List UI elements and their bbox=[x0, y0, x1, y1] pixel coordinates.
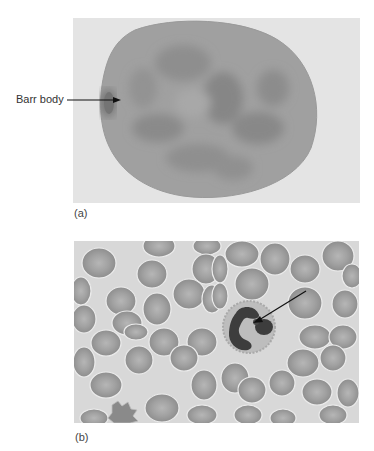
micrograph-panel-a bbox=[73, 18, 360, 203]
blood-smear-micrograph bbox=[74, 241, 359, 423]
barr-body-label: Barr body bbox=[16, 93, 64, 105]
nucleus-micrograph bbox=[73, 18, 360, 203]
micrograph-panel-b bbox=[74, 241, 359, 423]
panel-label-a: (a) bbox=[74, 207, 87, 219]
panel-label-b: (b) bbox=[75, 431, 88, 443]
neutrophil bbox=[223, 301, 275, 353]
